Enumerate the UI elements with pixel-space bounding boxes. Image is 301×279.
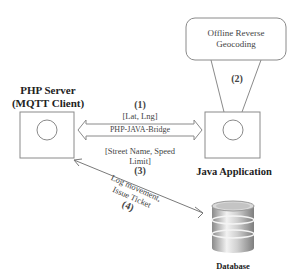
- database-icon: [212, 201, 254, 253]
- geocoding-line1: Offline Reverse: [186, 28, 286, 39]
- geocoding-line2: Geocoding: [186, 39, 286, 50]
- java-app-box: [205, 112, 260, 158]
- step3-label: [Street Name, Speed Limit]: [90, 146, 190, 166]
- step1-label: [Lat, Lng]: [100, 111, 180, 121]
- php-server-box: [20, 112, 74, 158]
- php-server-title-line1: PHP Server: [2, 84, 94, 97]
- database-title: Database: [193, 260, 273, 273]
- step3-number: (3): [125, 166, 155, 176]
- php-server-title-line2: (MQTT Client): [2, 97, 94, 110]
- java-app-title: Java Application: [188, 165, 280, 178]
- php-server-title: PHP Server (MQTT Client): [2, 84, 94, 110]
- step1-number: (1): [125, 100, 155, 110]
- step3-line1: [Street Name, Speed: [90, 146, 190, 156]
- bridge-label: PHP-JAVA-Bridge: [90, 125, 190, 135]
- step2-number: (2): [222, 74, 252, 84]
- geocoding-label: Offline Reverse Geocoding: [186, 28, 286, 50]
